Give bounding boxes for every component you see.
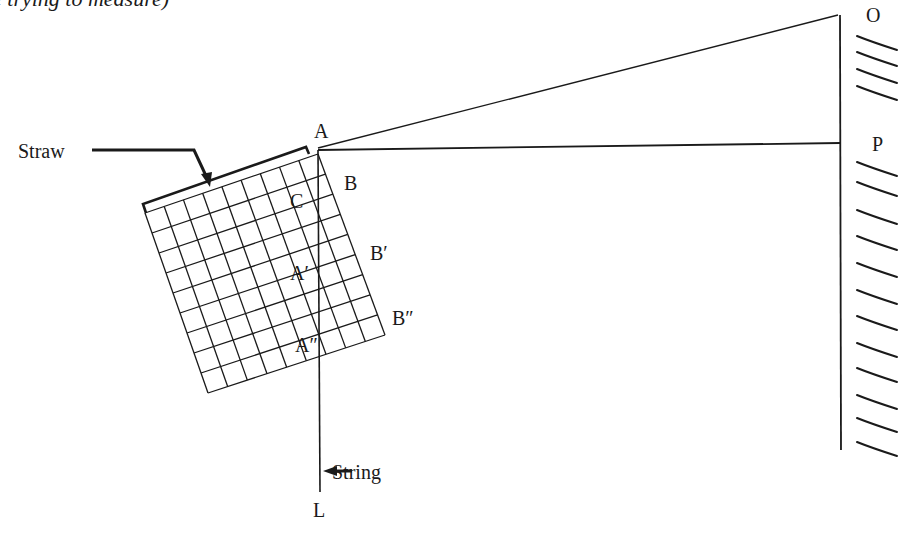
label-B-prime: B′	[370, 242, 388, 264]
wall-line	[840, 15, 841, 450]
label-A-double-prime: A″	[295, 334, 318, 356]
diagram-canvas: e trying to measure) Straw String A B C …	[0, 0, 913, 533]
wall-hatch-mark	[857, 210, 897, 224]
label-straw: Straw	[18, 140, 65, 162]
wall-hatch-mark	[857, 36, 897, 50]
wall-hatching	[857, 36, 897, 456]
wall-hatch-mark	[857, 418, 897, 432]
label-B: B	[344, 172, 357, 194]
straw-pointer-line	[92, 150, 207, 178]
wall-hatch-mark	[857, 162, 897, 176]
label-string: String	[332, 461, 381, 484]
line-A-P	[318, 143, 840, 150]
label-C: C	[290, 190, 303, 212]
wall-hatch-mark	[857, 395, 897, 409]
label-O: O	[866, 4, 880, 26]
line-A-O	[318, 15, 838, 148]
string-line	[318, 150, 320, 492]
wall-hatch-mark	[857, 236, 897, 250]
wall-hatch-mark	[857, 69, 897, 83]
wall-hatch-mark	[857, 442, 897, 456]
label-A-prime: A′	[290, 262, 309, 284]
caption-fragment: e trying to measure)	[0, 0, 169, 11]
wall-hatch-mark	[857, 368, 897, 382]
label-P: P	[872, 133, 883, 155]
wall-hatch-mark	[857, 52, 897, 66]
wall-hatch-mark	[857, 86, 897, 100]
wall-hatch-mark	[857, 182, 897, 196]
label-A: A	[314, 120, 329, 142]
label-L: L	[313, 499, 325, 521]
wall-hatch-mark	[857, 263, 897, 277]
wall-hatch-mark	[857, 316, 897, 330]
wall-hatch-mark	[857, 290, 897, 304]
wall-hatch-mark	[857, 343, 897, 357]
straw-pointer-arrowhead	[201, 172, 212, 187]
label-B-double-prime: B″	[392, 307, 414, 329]
